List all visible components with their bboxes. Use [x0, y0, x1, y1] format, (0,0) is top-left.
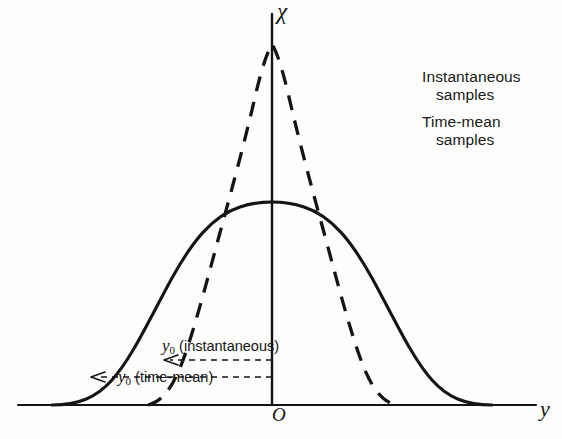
- legend-label-time-mean: Time-mean samples: [422, 113, 560, 150]
- origin-label: O: [272, 404, 286, 426]
- legend-label-time-mean-line2: samples: [422, 131, 560, 149]
- legend-label-instantaneous-line1: Instantaneous: [422, 68, 521, 85]
- annotation-qualifier: (instantaneous): [179, 338, 279, 354]
- annotation-symbol: y: [118, 367, 126, 386]
- annotation-y0-time-mean: y0 (time-mean): [118, 367, 213, 387]
- legend-item-time-mean: Time-mean samples: [364, 113, 560, 150]
- annotation-subscript: 0: [170, 344, 176, 356]
- annotation-subscript: 0: [126, 375, 132, 387]
- figure-container: Instantaneous samples Time-mean samples …: [0, 0, 562, 439]
- legend-label-instantaneous-line2: samples: [422, 86, 560, 104]
- legend-item-instantaneous: Instantaneous samples: [364, 68, 560, 105]
- distribution-plot: [0, 0, 562, 439]
- horizontal-axis-label: y: [540, 396, 550, 422]
- legend: Instantaneous samples Time-mean samples: [364, 68, 560, 157]
- legend-label-instantaneous: Instantaneous samples: [422, 68, 560, 105]
- annotation-qualifier: (time-mean): [135, 369, 213, 385]
- vertical-axis-label: χ: [277, 0, 287, 25]
- annotation-symbol: y: [162, 336, 170, 355]
- annotation-y0-instantaneous: y0 (instantaneous): [162, 336, 279, 356]
- legend-label-time-mean-line1: Time-mean: [422, 113, 501, 130]
- caption-fragment: [0, 424, 562, 439]
